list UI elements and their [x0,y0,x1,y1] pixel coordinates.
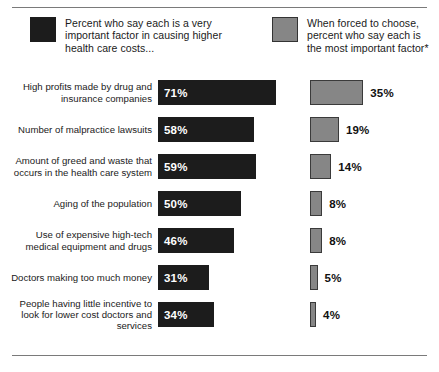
row-label: Aging of the population [7,198,152,209]
gray-bar-group: 8% [310,191,346,216]
gray-bar-value: 5% [325,272,342,284]
row-label: Number of malpractice lawsuits [7,124,152,135]
gray-bar [310,302,316,327]
legend-item-dark-series: Percent who say each is a very important… [30,17,250,54]
dark-bar: 46% [158,228,234,253]
dark-bar: 59% [158,154,256,179]
gray-bar-group: 4% [310,302,340,327]
row-label: Use of expensive high-techmedical equipm… [7,229,152,251]
gray-bar-group: 8% [310,228,346,253]
gray-bar-value: 35% [370,87,394,99]
chart-row: High profits made by drug andinsurance c… [0,80,439,106]
chart-row: Number of malpractice lawsuits58%19% [0,117,439,143]
dark-bar-value: 31% [164,272,188,284]
gray-bar [310,80,363,105]
gray-bar-group: 5% [310,265,342,290]
gray-swatch-icon [272,17,298,42]
dark-bar: 50% [158,191,241,216]
legend-item-gray-series: When forced to choose, percent who say e… [272,17,437,54]
dark-bar-value: 58% [164,124,188,136]
dark-swatch-icon [30,17,56,42]
gray-bar-group: 35% [310,80,394,105]
dark-bar: 34% [158,302,214,327]
dark-bar-group: 59% [158,154,256,179]
gray-bar-value: 8% [329,198,346,210]
dark-bar: 71% [158,80,276,105]
dark-bar-value: 34% [164,309,188,321]
dark-bar-value: 46% [164,235,188,247]
chart-row: Amount of greed and waste thatoccurs in … [0,154,439,180]
gray-bar-value: 8% [329,235,346,247]
legend-gray-label: When forced to choose, percent who say e… [307,17,437,54]
dark-bar-group: 34% [158,302,214,327]
dark-bar-group: 50% [158,191,241,216]
chart-container: Percent who say each is a very important… [0,0,439,372]
row-label: Doctors making too much money [7,272,152,283]
gray-bar-value: 19% [346,124,370,136]
row-label: High profits made by drug andinsurance c… [7,81,152,103]
dark-bar: 58% [158,117,254,142]
bottom-divider-rule [12,355,427,356]
dark-bar-group: 31% [158,265,209,290]
gray-bar-value: 14% [338,161,362,173]
dark-bar-group: 46% [158,228,234,253]
dark-bar-value: 50% [164,198,188,210]
row-label: Amount of greed and waste thatoccurs in … [7,155,152,177]
gray-bar [310,117,339,142]
legend-dark-label: Percent who say each is a very important… [65,17,250,54]
dark-bar-group: 58% [158,117,254,142]
top-divider-rule [12,7,427,8]
gray-bar-group: 19% [310,117,370,142]
chart-row: Use of expensive high-techmedical equipm… [0,228,439,254]
gray-bar [310,228,322,253]
gray-bar [310,154,331,179]
chart-row: People having little incentive tolook fo… [0,302,439,328]
dark-bar-value: 71% [164,87,188,99]
dark-bar: 31% [158,265,209,290]
chart-row: Doctors making too much money31%5% [0,265,439,291]
chart-row: Aging of the population50%8% [0,191,439,217]
dark-bar-value: 59% [164,161,188,173]
gray-bar [310,191,322,216]
gray-bar [310,265,318,290]
gray-bar-group: 14% [310,154,362,179]
row-label: People having little incentive tolook fo… [7,298,152,332]
gray-bar-value: 4% [323,309,340,321]
dark-bar-group: 71% [158,80,276,105]
